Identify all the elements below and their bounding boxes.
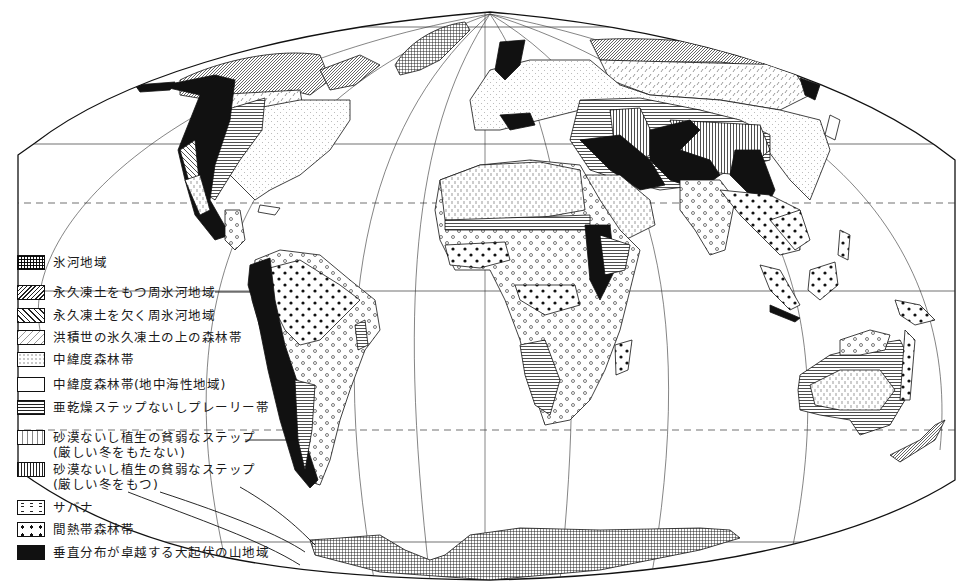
legend-label: 氷河地域 [53,255,107,270]
legend-label: 垂直分布が卓越する大起伏の山地域 [53,545,269,560]
legend-label: 中緯度森林帯(地中海性地域) [53,377,226,392]
legend-label: 亜乾燥ステップないしプレーリー帯 [53,400,269,415]
open-circles-swatch-icon [17,500,45,515]
legend-item-semiarid-steppe-prairie: 亜乾燥ステップないしプレーリー帯 [17,400,269,415]
legend-item-periglacial-permafrost: 永久凍土をもつ周氷河地域 [17,285,215,300]
solid-black-swatch-icon [17,545,45,560]
legend-item-intertropical-forest: 間熱帯森林帯 [17,522,134,537]
legend-item-savanna: サバナ [17,500,94,515]
dense-diagonal-swatch-icon [17,285,45,300]
vertical-dashes-swatch-icon [17,430,45,445]
fine-dots-swatch-icon [17,352,45,367]
sparse-diagonal-swatch-icon [17,308,45,323]
legend-item-desert-steppe-harsh-winter: 砂漠ないし植生の貧弱なステップ (厳しい冬をもつ) [17,462,256,492]
legend-item-desert-steppe-mild-winter: 砂漠ないし植生の貧弱なステップ (厳しい冬をもたない) [17,430,256,460]
legend-item-midlatitude-forest-mediterranean: 中緯度森林帯(地中海性地域) [17,377,226,392]
legend-label: 中緯度森林帯 [53,352,134,367]
legend-label: サバナ [53,500,94,515]
legend-label: 砂漠ないし植生の貧弱なステップ (厳しい冬をもたない) [53,430,256,460]
legend-item-glacier: 氷河地域 [17,255,107,270]
legend-label: 永久凍土をもつ周氷河地域 [53,285,215,300]
glacier-swatch-icon [17,255,45,270]
horizontal-lines-swatch-icon [17,400,45,415]
legend-item-midlatitude-forest: 中緯度森林帯 [17,352,134,367]
legend-label: 砂漠ないし植生の貧弱なステップ (厳しい冬をもつ) [53,462,256,492]
legend-item-pleistocene-permafrost-forest: 洪積世の氷久凍土の上の森林帯 [17,330,242,345]
legend-item-high-relief-mountain: 垂直分布が卓越する大起伏の山地域 [17,545,269,560]
filled-dots-swatch-icon [17,522,45,537]
legend-item-periglacial-no-permafrost: 永久凍土を欠く周氷河地域 [17,308,215,323]
legend-label: 間熱帯森林帯 [53,522,134,537]
legend-label: 永久凍土を欠く周氷河地域 [53,308,215,323]
vertical-lines-swatch-icon [17,462,45,477]
diagonal-dash-swatch-icon [17,330,45,345]
legend-label: 洪積世の氷久凍土の上の森林帯 [53,330,242,345]
blank-swatch-icon [17,377,45,392]
